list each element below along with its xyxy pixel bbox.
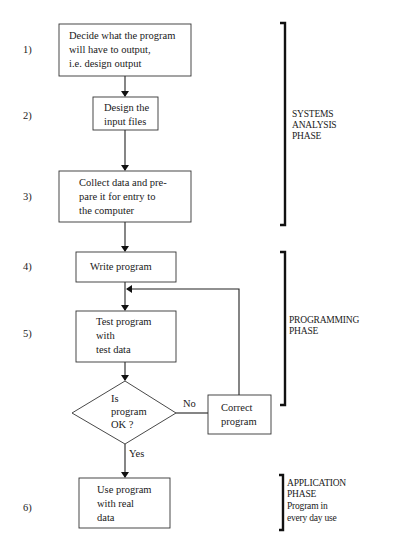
svg-text:program: program <box>221 416 257 427</box>
step-number-1: 1) <box>23 44 32 56</box>
svg-text:pare it for entry to: pare it for entry to <box>79 191 155 202</box>
svg-text:ANALYSIS: ANALYSIS <box>292 120 336 130</box>
svg-text:program: program <box>111 406 147 417</box>
svg-text:input files: input files <box>104 116 146 127</box>
svg-text:Test program: Test program <box>96 316 152 327</box>
svg-text:Program in: Program in <box>287 501 328 511</box>
svg-text:SYSTEMS: SYSTEMS <box>292 109 333 119</box>
application-phase-bracket: APPLICATION PHASE Program in every day u… <box>279 475 346 530</box>
step-6-box: Use program with real data <box>79 478 170 528</box>
step-3-box: Collect data and pre- pare it for entry … <box>59 171 191 222</box>
svg-text:OK ?: OK ? <box>111 419 134 430</box>
svg-text:the computer: the computer <box>79 205 135 216</box>
step-numbers: 1) 2) 3) 4) 5) 6) <box>23 44 32 514</box>
svg-text:i.e. design output: i.e. design output <box>69 58 141 69</box>
svg-text:data: data <box>97 512 115 523</box>
svg-text:PHASE: PHASE <box>289 326 318 336</box>
correct-program-box: Correct program <box>208 395 271 434</box>
decision-diamond: Is program OK ? No Yes <box>72 381 196 459</box>
programming-phase-bracket: PROGRAMMING PHASE <box>280 252 359 405</box>
svg-text:with: with <box>96 330 115 341</box>
svg-text:will have to output,: will have to output, <box>69 44 151 55</box>
step-number-6: 6) <box>23 502 32 514</box>
svg-text:Is: Is <box>111 393 119 404</box>
step-2-box: Design the input files <box>93 97 158 130</box>
yes-label: Yes <box>129 448 144 459</box>
step-4-box: Write program <box>76 252 176 282</box>
svg-text:PROGRAMMING: PROGRAMMING <box>289 315 359 325</box>
step-5-box: Test program with test data <box>76 311 176 362</box>
svg-text:Correct: Correct <box>221 402 253 413</box>
svg-text:with real: with real <box>97 498 134 509</box>
step-number-3: 3) <box>23 191 32 203</box>
svg-text:PHASE: PHASE <box>292 131 321 141</box>
svg-text:Design the: Design the <box>104 102 150 113</box>
svg-text:every day use: every day use <box>287 513 337 523</box>
svg-text:PHASE: PHASE <box>287 489 316 499</box>
svg-text:APPLICATION: APPLICATION <box>287 478 346 488</box>
step-number-5: 5) <box>23 328 32 340</box>
systems-phase-bracket: SYSTEMS ANALYSIS PHASE <box>280 23 336 225</box>
svg-text:Write program: Write program <box>90 261 152 272</box>
no-label: No <box>183 398 196 409</box>
svg-text:Use program: Use program <box>97 484 152 495</box>
svg-text:Collect data and pre-: Collect data and pre- <box>79 177 167 188</box>
svg-text:test data: test data <box>96 344 131 355</box>
step-number-2: 2) <box>23 110 32 122</box>
flowchart: 1) 2) 3) 4) 5) 6) Decide what the progra… <box>0 0 399 554</box>
step-1-box: Decide what the program will have to out… <box>59 24 191 76</box>
svg-text:Decide what the program: Decide what the program <box>69 30 175 41</box>
step-number-4: 4) <box>23 261 32 273</box>
